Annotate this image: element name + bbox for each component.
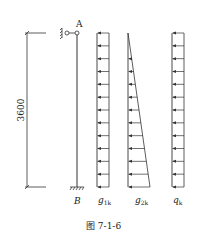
load-g1k-arrowhead — [97, 134, 101, 137]
load-g1k-arrowhead — [97, 70, 101, 73]
load-g1k-arrowhead — [97, 44, 101, 47]
load-g2k-arrowhead — [128, 70, 132, 73]
load-qk-arrowhead — [172, 96, 176, 99]
fixed-support-icon — [70, 187, 84, 190]
load-label-qk: qk — [173, 195, 183, 206]
load-g2k-arrowhead — [128, 83, 132, 86]
load-label-g1k: g1k — [98, 195, 112, 206]
dimension-line — [25, 31, 46, 189]
load-g2k-arrowhead — [128, 57, 132, 60]
column-load-diagram: 3600 A B g1k g2k qk 图 7-1-6 — [0, 0, 198, 241]
load-g1k-arrowhead — [97, 121, 101, 124]
load-g2k-arrowhead — [128, 186, 132, 189]
load-g2k-arrowhead — [128, 109, 132, 112]
load-g1k-arrowhead — [97, 147, 101, 150]
load-g1k-arrowhead — [97, 83, 101, 86]
load-qk-arrowhead — [172, 32, 176, 35]
node-a-label: A — [75, 19, 83, 29]
load-g1k-arrowhead — [97, 109, 101, 112]
load-g2k-arrowhead — [128, 134, 132, 137]
load-qk-arrowhead — [172, 109, 176, 112]
load-g2k-arrowhead — [128, 121, 132, 124]
figure-caption: 图 7-1-6 — [86, 221, 121, 231]
roller-support-icon — [60, 28, 79, 39]
load-g1k-arrowhead — [97, 160, 101, 163]
load-g2k-arrowhead — [128, 96, 132, 99]
load-qk-arrowhead — [172, 186, 176, 189]
load-g1k-arrowhead — [97, 173, 101, 176]
load-g2k-arrowhead — [128, 147, 132, 150]
load-g2k-arrowhead — [128, 173, 132, 176]
load-g2k-arrowhead — [128, 160, 132, 163]
load-qk-arrowhead — [172, 83, 176, 86]
load-qk-arrowhead — [172, 121, 176, 124]
load-g1k-arrowhead — [97, 32, 101, 35]
load-g1k-arrowhead — [97, 96, 101, 99]
load-qk-arrowhead — [172, 44, 176, 47]
load-label-g2k: g2k — [135, 195, 149, 206]
node-b-label: B — [73, 196, 81, 206]
load-qk-arrowhead — [172, 173, 176, 176]
load-g1k-arrowhead — [97, 57, 101, 60]
dimension-label: 3600 — [16, 98, 26, 121]
load-qk-arrowhead — [172, 134, 176, 137]
load-qk-arrowhead — [172, 57, 176, 60]
load-qk-arrowhead — [172, 70, 176, 73]
load-g1k-arrowhead — [97, 186, 101, 189]
load-qk-arrowhead — [172, 147, 176, 150]
load-qk-arrowhead — [172, 160, 176, 163]
